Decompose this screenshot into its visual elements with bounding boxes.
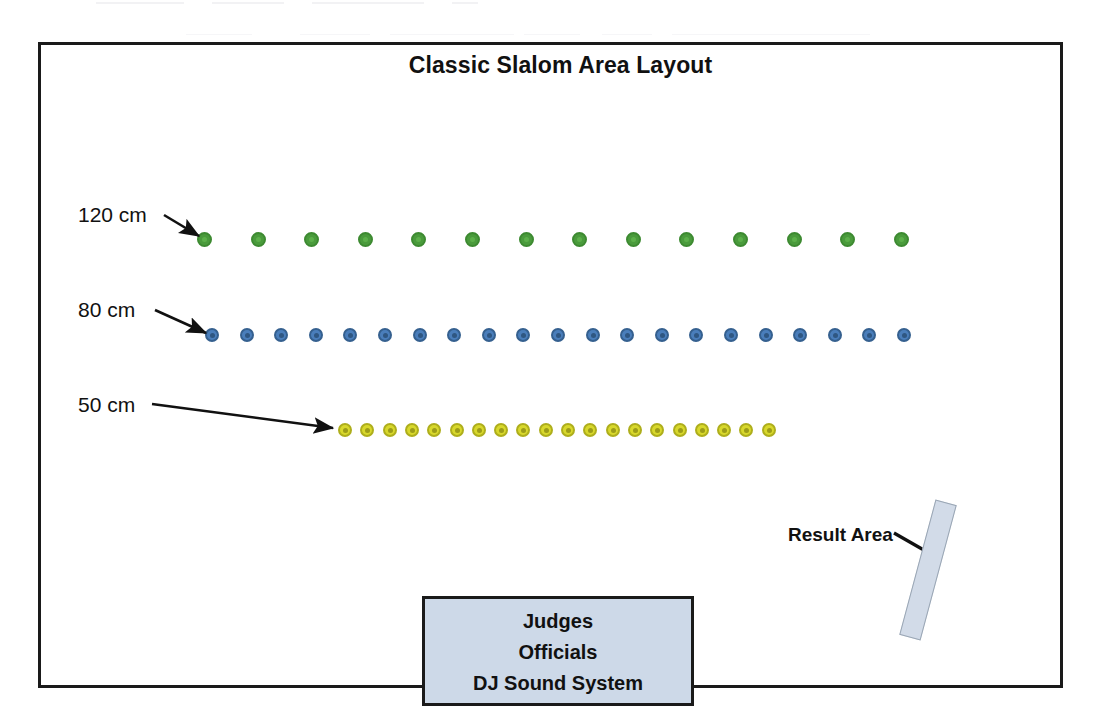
cone-marker (383, 423, 397, 437)
cone-marker (689, 328, 703, 342)
cone-marker (739, 423, 753, 437)
cone-marker (309, 328, 323, 342)
cone-marker (733, 232, 748, 247)
cone-marker (516, 423, 530, 437)
cone-marker (894, 232, 909, 247)
scan-artifact (186, 34, 252, 35)
cone-marker (472, 423, 486, 437)
cone-marker (586, 328, 600, 342)
cone-marker (304, 232, 319, 247)
cone-marker (628, 423, 642, 437)
cone-marker (897, 328, 911, 342)
judges-line-officials: Officials (425, 637, 691, 668)
cone-marker (274, 328, 288, 342)
scan-artifact (312, 2, 424, 4)
judges-line-judges: Judges (425, 606, 691, 637)
cone-marker (240, 328, 254, 342)
cone-marker (717, 423, 731, 437)
cone-marker (494, 423, 508, 437)
scan-artifact (452, 2, 478, 4)
cone-marker (759, 328, 773, 342)
cone-marker (862, 328, 876, 342)
cone-marker (197, 232, 212, 247)
cone-marker (465, 232, 480, 247)
cone-marker (673, 423, 687, 437)
scan-artifact (300, 34, 370, 35)
scan-artifact (212, 2, 284, 4)
cone-marker (650, 423, 664, 437)
cone-marker (551, 328, 565, 342)
cone-marker (447, 328, 461, 342)
cone-marker (679, 232, 694, 247)
cone-marker (338, 423, 352, 437)
cone-marker (378, 328, 392, 342)
cone-marker (840, 232, 855, 247)
cone-marker (787, 232, 802, 247)
scan-artifact (524, 34, 580, 35)
cone-marker (793, 328, 807, 342)
cone-marker (251, 232, 266, 247)
cone-marker (626, 232, 641, 247)
cone-marker (539, 423, 553, 437)
distance-label: 80 cm (78, 298, 135, 322)
page-title-text: Classic Slalom Area Layout (409, 52, 712, 79)
cone-marker (360, 423, 374, 437)
scan-artifact (602, 34, 652, 35)
cone-marker (343, 328, 357, 342)
cone-marker (606, 423, 620, 437)
cone-marker (572, 232, 587, 247)
scan-artifact (96, 2, 184, 4)
cone-marker (695, 423, 709, 437)
cone-marker (655, 328, 669, 342)
cone-marker (519, 232, 534, 247)
distance-label: 120 cm (78, 203, 147, 227)
scan-artifact (390, 34, 514, 35)
cone-marker (482, 328, 496, 342)
judges-line-dj-sound-system: DJ Sound System (425, 668, 691, 699)
cone-marker (358, 232, 373, 247)
cone-marker (583, 423, 597, 437)
cone-marker (450, 423, 464, 437)
judges-officials-box: Judges Officials DJ Sound System (422, 596, 694, 706)
diagram-canvas: Classic Slalom Area Layout 120 cm80 cm50… (0, 0, 1101, 728)
result-area-label: Result Area (788, 524, 893, 546)
cone-marker (405, 423, 419, 437)
cone-marker (413, 328, 427, 342)
cone-marker (205, 328, 219, 342)
cone-marker (620, 328, 634, 342)
court-frame (38, 42, 1063, 688)
cone-marker (411, 232, 426, 247)
page-title: Classic Slalom Area Layout (0, 52, 1101, 79)
cone-marker (762, 423, 776, 437)
scan-artifact (672, 34, 870, 35)
cone-marker (561, 423, 575, 437)
distance-label: 50 cm (78, 393, 135, 417)
cone-marker (516, 328, 530, 342)
cone-marker (724, 328, 738, 342)
cone-marker (427, 423, 441, 437)
cone-marker (828, 328, 842, 342)
